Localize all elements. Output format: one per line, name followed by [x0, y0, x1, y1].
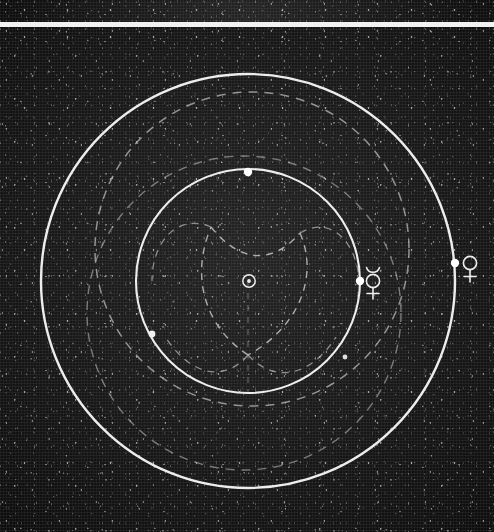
rosette-arc-2 [211, 227, 300, 256]
marker-mercury-top [244, 168, 252, 176]
sun-icon [243, 275, 255, 287]
mercury-rosette [202, 227, 307, 355]
marker-mercury-body [356, 277, 364, 285]
orbit-diagram [0, 27, 494, 532]
lower-deferent-circle [87, 156, 401, 470]
rosette-outer-lobes [152, 223, 359, 372]
lobe-bottom-right [248, 337, 336, 373]
rosette-arc-1 [202, 227, 248, 355]
marker-venus-body [451, 259, 459, 267]
venus-icon [463, 256, 476, 282]
marker-mercury-left [149, 331, 156, 338]
lobe-left [152, 223, 211, 281]
top-strip-grain [0, 0, 494, 22]
figure-page [0, 0, 494, 532]
main-plate [0, 27, 494, 532]
top-plate-strip [0, 0, 494, 22]
marker-mercury-lower-right [343, 355, 348, 360]
rosette-arc-3 [248, 233, 307, 355]
mercury-icon [366, 268, 379, 300]
